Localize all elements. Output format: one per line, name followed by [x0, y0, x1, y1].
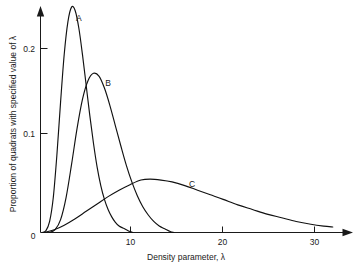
y-tick-marks: [41, 49, 48, 134]
curve-b: [50, 73, 174, 232]
x-tick-label-0: 0: [31, 231, 36, 241]
x-tick-label-20: 20: [218, 237, 228, 247]
curve-label-a: A: [76, 13, 82, 23]
x-tick-marks: [131, 227, 315, 233]
curve-a: [42, 6, 132, 232]
x-axis-title: Density parameter, λ: [147, 252, 226, 262]
y-tick-label-0.1: 0.1: [23, 129, 35, 139]
chart-canvas: 0 10 20 30 0.1 0.2 A B C Density paramet…: [0, 0, 359, 268]
chart-figure: 0 10 20 30 0.1 0.2 A B C Density paramet…: [0, 0, 359, 268]
x-axis-arrow-icon: [343, 229, 354, 236]
x-tick-label-10: 10: [126, 237, 136, 247]
y-axis-arrow-icon: [37, 6, 44, 17]
y-tick-label-0.2: 0.2: [23, 44, 35, 54]
curve-label-c: C: [189, 179, 195, 189]
curve-label-b: B: [105, 78, 111, 88]
y-axis-title: Proportion of quadrats with specified va…: [8, 35, 18, 212]
x-tick-label-30: 30: [310, 237, 320, 247]
